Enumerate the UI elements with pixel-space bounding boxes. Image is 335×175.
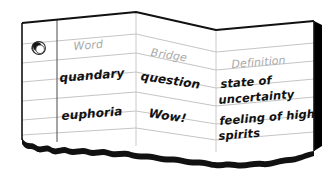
notebook-page: Word Bridge Definition quandary question…	[0, 0, 335, 175]
column-header-word: Word	[73, 39, 103, 52]
page-shadow	[314, 21, 322, 151]
